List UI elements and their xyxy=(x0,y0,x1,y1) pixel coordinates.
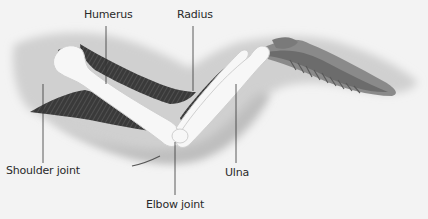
wing-anatomy-diagram: Humerus Radius Shoulder joint Ulna Elbow… xyxy=(0,0,428,219)
label-ulna: Ulna xyxy=(225,167,249,178)
wing-illustration xyxy=(0,0,428,219)
label-elbow-joint: Elbow joint xyxy=(146,199,204,210)
label-radius: Radius xyxy=(177,9,213,20)
label-shoulder-joint: Shoulder joint xyxy=(6,165,80,176)
label-humerus: Humerus xyxy=(84,9,133,20)
